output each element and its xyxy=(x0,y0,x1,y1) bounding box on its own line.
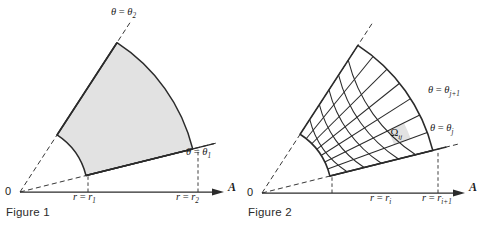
figure-1-axis-label: A xyxy=(228,180,236,195)
ri-sub: i xyxy=(389,198,391,206)
figure-2-cell-omega-ij-label: Ωij xyxy=(390,127,402,141)
figure-2-origin-label: 0 xyxy=(247,186,253,198)
thetajp1-sub: j+1 xyxy=(450,90,460,98)
figure-2-mesh-ray-4 xyxy=(317,83,400,149)
omega-sub: ij xyxy=(398,133,402,141)
theta1-sub: 1 xyxy=(208,152,212,160)
ri-eq: = xyxy=(374,192,385,203)
thetajp1-eq: = xyxy=(433,84,444,95)
r2-eq: = xyxy=(180,191,191,202)
thetaj-sub: j xyxy=(452,128,454,136)
figure-1-shaded-sector-region xyxy=(57,43,193,176)
figure-1-caption: Figure 1 xyxy=(6,206,50,218)
figure-1-origin-label: 0 xyxy=(5,185,11,197)
theta2-sub: 2 xyxy=(133,12,137,20)
figure-pair-canvas: Figure 1 0 A θ = θ2 θ = θ1 r = r1 r = r2… xyxy=(0,0,485,232)
r2-sub: 2 xyxy=(195,197,199,205)
figure-1-axis-arrowhead xyxy=(212,188,224,195)
figure-2-thetajp1-label: θ = θj+1 xyxy=(428,84,460,98)
figure-2-ri-label: r = ri xyxy=(370,192,391,206)
figure-2-axis-arrowhead xyxy=(453,189,465,196)
r1-eq: = xyxy=(77,191,88,202)
figure-1-theta1-label: θ = θ1 xyxy=(186,146,211,160)
figure-2-caption: Figure 2 xyxy=(248,206,292,218)
thetaj-eq: = xyxy=(435,122,446,133)
figure-1-r1-label: r = r1 xyxy=(73,191,96,205)
figure-2-thetaj-label: θ = θj xyxy=(430,122,454,136)
theta1-eq: = xyxy=(191,146,202,157)
figure-2-axis-label: A xyxy=(469,180,477,195)
figure-2-rip1-label: r = ri+1 xyxy=(422,192,452,206)
figure-1-r2-label: r = r2 xyxy=(176,191,199,205)
rip1-eq: = xyxy=(426,192,437,203)
theta2-eq: = xyxy=(116,6,127,17)
rip1-sub: i+1 xyxy=(441,198,451,206)
figure-1-theta2-label: θ = θ2 xyxy=(111,6,136,20)
r1-sub: 1 xyxy=(92,197,96,205)
